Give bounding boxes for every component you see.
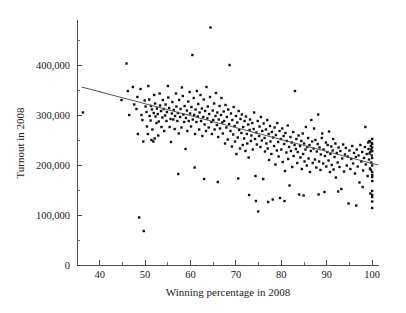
data-point	[191, 54, 193, 56]
data-point	[337, 146, 339, 148]
data-point	[146, 125, 148, 127]
data-point	[139, 88, 141, 90]
data-point	[252, 128, 254, 130]
data-point	[371, 200, 373, 202]
data-point	[306, 164, 308, 166]
x-tick-label: 40	[94, 269, 105, 280]
data-point	[165, 120, 167, 122]
data-point	[235, 115, 237, 117]
data-point	[338, 166, 340, 168]
data-point	[246, 133, 248, 135]
data-point	[135, 108, 137, 110]
data-point	[363, 157, 365, 159]
data-point	[279, 197, 281, 199]
data-point	[316, 143, 318, 145]
data-point	[203, 178, 205, 180]
data-point	[151, 128, 153, 130]
data-point	[295, 148, 297, 150]
data-point	[217, 181, 219, 183]
data-point	[170, 141, 172, 143]
data-point	[176, 120, 178, 122]
data-point	[179, 108, 181, 110]
data-point	[247, 123, 249, 125]
data-point	[208, 113, 210, 115]
data-point	[371, 190, 373, 192]
data-point	[359, 144, 361, 146]
data-point	[257, 210, 259, 212]
data-point	[337, 190, 339, 192]
data-point	[195, 121, 197, 123]
data-point	[171, 112, 173, 114]
data-point	[277, 155, 279, 157]
data-point	[308, 144, 310, 146]
data-point	[323, 191, 325, 193]
data-point	[307, 157, 309, 159]
data-point	[364, 126, 366, 128]
data-point	[201, 107, 203, 109]
data-point	[240, 132, 242, 134]
x-tick-label: 60	[185, 269, 196, 280]
data-point	[201, 135, 203, 137]
x-tick-label: 90	[322, 269, 333, 280]
data-point	[194, 133, 196, 135]
data-point	[222, 110, 224, 112]
data-point	[287, 124, 289, 126]
data-point	[184, 148, 186, 150]
data-point	[255, 200, 257, 202]
data-point	[305, 126, 307, 128]
data-point	[242, 126, 244, 128]
data-point	[227, 138, 229, 140]
x-tick-label: 100	[364, 269, 380, 280]
x-axis-major-ticks	[100, 260, 372, 265]
chart-canvas: 0100,000200,000300,000400,000 4050607080…	[0, 0, 406, 313]
data-point	[330, 145, 332, 147]
data-point	[174, 115, 176, 117]
data-point	[355, 204, 357, 206]
data-point	[340, 188, 342, 190]
data-point	[203, 123, 205, 125]
scatter-points-group	[82, 26, 374, 232]
data-point	[259, 146, 261, 148]
data-point	[331, 164, 333, 166]
data-point	[342, 143, 344, 145]
data-point	[225, 126, 227, 128]
data-point	[258, 135, 260, 137]
data-point	[216, 111, 218, 113]
data-point	[371, 207, 373, 209]
data-point	[356, 148, 358, 150]
data-point	[361, 151, 363, 153]
data-point	[297, 151, 299, 153]
data-point	[212, 109, 214, 111]
data-point	[300, 140, 302, 142]
data-point	[186, 130, 188, 132]
data-point	[354, 172, 356, 174]
data-point	[143, 99, 145, 101]
data-point	[244, 150, 246, 152]
data-point	[133, 103, 135, 105]
data-point	[220, 97, 222, 99]
data-point	[325, 165, 327, 167]
data-point	[217, 136, 219, 138]
data-point	[288, 146, 290, 148]
data-point	[282, 135, 284, 137]
data-point	[276, 122, 278, 124]
data-point	[153, 112, 155, 114]
data-point	[245, 115, 247, 117]
data-point	[144, 105, 146, 107]
data-point	[262, 178, 264, 180]
data-point	[153, 137, 155, 139]
data-point	[158, 120, 160, 122]
data-point	[197, 103, 199, 105]
data-point	[321, 132, 323, 134]
data-point	[246, 142, 248, 144]
data-point	[250, 140, 252, 142]
data-point	[318, 146, 320, 148]
data-point	[237, 177, 239, 179]
data-point	[190, 125, 192, 127]
data-point	[347, 202, 349, 204]
data-point	[218, 105, 220, 107]
data-point	[294, 90, 296, 92]
data-point	[351, 145, 353, 147]
data-point	[261, 130, 263, 132]
data-point	[200, 120, 202, 122]
